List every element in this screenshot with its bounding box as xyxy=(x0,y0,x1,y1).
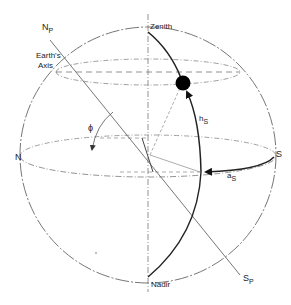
sun-vertical-arc-upper xyxy=(148,32,181,78)
earths-axis-label-line2: Axis xyxy=(38,62,53,70)
sun-dot xyxy=(176,76,191,91)
latitude-arc xyxy=(92,112,113,150)
north-label: N xyxy=(15,153,22,162)
zenith-label: Zenith xyxy=(150,23,172,31)
diagram-canvas xyxy=(0,0,291,305)
nadir-label: Nadir xyxy=(151,281,170,289)
south-pole-label: SP xyxy=(243,274,254,283)
azimuth-label-sub: S xyxy=(231,175,236,182)
south-pole-label-sub: P xyxy=(249,278,254,285)
altitude-arc xyxy=(187,92,201,172)
north-pole-label-sub: P xyxy=(49,27,54,34)
centre-marker-1 xyxy=(142,138,153,172)
latitude-phi-label: ϕ xyxy=(88,124,93,133)
north-pole-label-main: N xyxy=(42,22,49,32)
north-pole-label: NP xyxy=(42,23,53,32)
earths-axis-line xyxy=(50,40,240,275)
sun-vertical-arc-lower xyxy=(148,172,201,277)
celestial-sphere-diagram: NP Earth's Axis Zenith Nadir N S ϕ hS aS… xyxy=(0,0,291,305)
south-label: S xyxy=(276,150,282,159)
stray-dot xyxy=(95,252,97,254)
altitude-label-sub: S xyxy=(203,118,208,125)
centre-to-azimuth-line xyxy=(150,155,200,172)
altitude-label: hS xyxy=(199,115,208,123)
azimuth-arrow-arc xyxy=(206,157,274,172)
earths-axis-label-line1: Earth's xyxy=(36,52,61,60)
centre-to-sun-line xyxy=(150,88,180,155)
azimuth-label: aS xyxy=(227,172,236,180)
